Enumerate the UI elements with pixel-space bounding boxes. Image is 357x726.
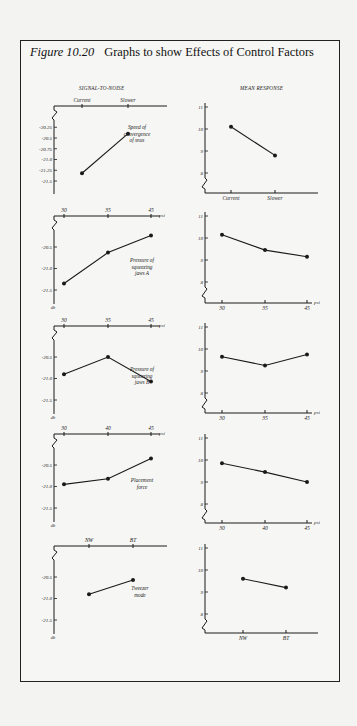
x-tick-label: 40 (262, 525, 268, 531)
data-line (231, 127, 275, 156)
data-point (62, 482, 66, 486)
y-tick-label: 9 (201, 480, 204, 485)
y-tick-label: 10 (198, 127, 204, 132)
y-unit-label: db (51, 635, 56, 640)
y-tick-label: -21.0 (42, 266, 53, 271)
x-tick-label: NW (84, 537, 94, 543)
x-tick-label: 30 (218, 305, 225, 311)
x-tick-label: 30 (60, 425, 67, 431)
x-tick-label: 35 (104, 207, 111, 213)
y-tick-label: -20.5 (42, 355, 53, 360)
y-tick-label: 10 (198, 458, 204, 463)
y-tick-label: 11 (198, 105, 203, 110)
x-tick-label: NW (238, 635, 248, 641)
data-point (106, 355, 110, 359)
mean-plot-2: 111098303545psi (198, 212, 320, 311)
y-tick-label: -21.0 (42, 484, 53, 489)
data-point (220, 233, 224, 237)
axes-with-break (202, 323, 312, 413)
x-tick-label: 45 (148, 317, 154, 323)
factor-label: of snus (130, 137, 145, 143)
y-tick-label: 9 (201, 149, 204, 154)
factor-label: squeezing (132, 373, 153, 379)
data-point (220, 355, 224, 359)
y-unit-label: db (51, 415, 56, 420)
x-tick-label: 35 (261, 415, 268, 421)
data-point (220, 461, 224, 465)
data-point (284, 586, 288, 590)
data-line (89, 580, 133, 594)
x-tick-label: 30 (218, 525, 225, 531)
factor-label: squeezing (132, 264, 153, 270)
y-tick-label: 8 (201, 171, 204, 176)
x-tick-label: 45 (148, 207, 154, 213)
factor-label: mode (134, 592, 146, 598)
y-tick-label: -21.5 (42, 618, 53, 623)
factor-label: jaws A (134, 270, 150, 276)
factor-label: Pressure of (129, 257, 155, 263)
y-tick-label: 11 (198, 214, 203, 219)
x-tick-label: BT (283, 635, 290, 641)
x-tick-label: 45 (304, 525, 310, 531)
data-point (305, 480, 309, 484)
y-tick-label: 9 (201, 258, 204, 263)
mean-plot-4: 111098304045psi (198, 434, 320, 531)
data-point (263, 248, 267, 252)
axes-with-break (202, 434, 312, 523)
y-unit-label: db (51, 523, 56, 528)
plots-canvas: CurrentSlower-20.25-20.5-20.75-21.0-21.2… (0, 0, 357, 726)
y-tick-label: -21.5 (42, 179, 53, 184)
mean-plot-5: 111098NWBT (198, 544, 318, 641)
sn-plot-5: NWBT-20.5-21.0-21.5dbTweezermode (42, 537, 167, 640)
y-tick-label: -21.0 (42, 596, 53, 601)
y-tick-label: 8 (201, 280, 204, 285)
mean-plot-3: 111098303545psi (198, 323, 320, 421)
x-tick-label: 30 (60, 207, 67, 213)
mean-plot-1: 111098CurrentSlower (198, 103, 318, 201)
data-point (87, 592, 91, 596)
x-unit-label: psi (313, 410, 320, 415)
y-tick-label: -20.25 (39, 125, 52, 130)
y-tick-label: 10 (198, 347, 204, 352)
y-tick-label: 10 (198, 568, 204, 573)
data-point (62, 282, 66, 286)
x-unit-label: psi (158, 323, 165, 328)
data-point (263, 470, 267, 474)
x-unit-label: psi (313, 300, 320, 305)
factor-label: convergence (124, 131, 151, 137)
data-point (106, 477, 110, 481)
axes-with-break (202, 212, 312, 303)
sn-plot-3: 303545psi-20.5-21.0-21.5dbPressure ofsqu… (42, 317, 166, 420)
axes-with-break (202, 103, 318, 193)
x-unit-label: psi (158, 213, 165, 218)
sn-plot-1: CurrentSlower-20.25-20.5-20.75-21.0-21.2… (39, 97, 167, 194)
x-tick-label: 30 (218, 415, 225, 421)
sn-plot-2: 303545psi-20.5-21.0-21.5dbPressure ofsqu… (42, 207, 166, 310)
data-line (82, 134, 128, 174)
data-point (149, 457, 153, 461)
y-tick-label: -21.25 (39, 168, 52, 173)
data-point (305, 255, 309, 259)
data-line (222, 235, 307, 257)
y-tick-label: 11 (198, 546, 203, 551)
y-axis-with-break (52, 326, 57, 414)
factor-label: Speed of (128, 124, 148, 130)
y-tick-label: 9 (201, 590, 204, 595)
x-tick-label: 30 (60, 317, 67, 323)
y-tick-label: 9 (201, 369, 204, 374)
x-tick-label: BT (130, 537, 137, 543)
data-point (62, 372, 66, 376)
data-point (273, 153, 277, 157)
y-tick-label: 11 (198, 325, 203, 330)
data-point (149, 380, 153, 384)
y-tick-label: -20.5 (42, 463, 53, 468)
y-axis-with-break (52, 546, 57, 634)
x-unit-label: psi (313, 520, 320, 525)
y-unit-label: db (51, 305, 56, 310)
y-tick-label: 11 (198, 436, 203, 441)
data-point (80, 171, 84, 175)
data-point (229, 125, 233, 129)
y-tick-label: -20.5 (42, 245, 53, 250)
y-tick-label: -20.5 (42, 136, 53, 141)
x-tick-label: 35 (261, 305, 268, 311)
